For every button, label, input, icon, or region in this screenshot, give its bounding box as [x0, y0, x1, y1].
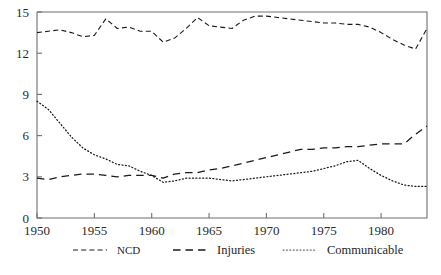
x-tick-label: 1965	[196, 223, 222, 238]
y-tick-label: 12	[16, 46, 29, 61]
x-tick-label: 1975	[311, 223, 337, 238]
x-tick-label: 1960	[139, 223, 165, 238]
y-tick-label: 9	[23, 87, 30, 102]
y-tick-label: 15	[16, 5, 29, 20]
series-line-communicable	[37, 101, 427, 186]
x-tick-label: 1955	[81, 223, 107, 238]
series-line-ncd	[37, 16, 427, 49]
y-tick-label: 3	[23, 169, 30, 184]
legend-label-ncd: NCD	[117, 244, 140, 256]
series-line-injuries	[37, 126, 427, 180]
chart-canvas: 03691215 1950195519601965197019751980 NC…	[0, 0, 441, 275]
legend-label-communicable: Communicable	[327, 243, 404, 257]
x-tick-label: 1950	[24, 223, 50, 238]
x-tick-label: 1970	[253, 223, 279, 238]
line-chart-figure: 03691215 1950195519601965197019751980 NC…	[0, 0, 441, 275]
data-series-group	[37, 16, 427, 186]
chart-legend: NCDInjuriesCommunicable	[73, 243, 404, 257]
x-axis-ticks: 1950195519601965197019751980	[24, 213, 394, 238]
y-axis-ticks: 03691215	[16, 5, 42, 226]
legend-label-injuries: Injuries	[217, 243, 255, 257]
y-tick-label: 6	[23, 128, 30, 143]
x-tick-label: 1980	[368, 223, 394, 238]
plot-frame	[37, 12, 427, 218]
